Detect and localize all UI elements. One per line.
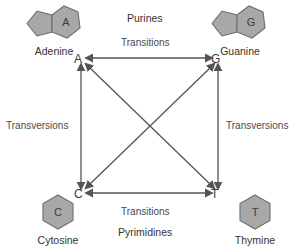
edge-label-bottom-transitions: Transitions (121, 207, 170, 217)
base-name-guanine: Guanine (200, 46, 280, 57)
molecule-guanine: G (209, 4, 271, 42)
base-name-cytosine: Cytosine (18, 235, 98, 246)
group-label-purines: Purines (127, 13, 163, 24)
molecule-letter-a: A (62, 16, 70, 28)
edge-label-top-transitions: Transitions (121, 38, 170, 48)
purine-shape-icon: A (24, 4, 86, 42)
pyrimidine-shape-icon: C (40, 193, 76, 231)
group-label-pyrimidines: Pyrimidines (118, 227, 172, 238)
pyrimidine-shape-icon: T (237, 193, 273, 231)
base-name-adenine: Adenine (14, 46, 94, 57)
edge-label-left-transversions: Transversions (6, 121, 68, 131)
molecule-letter-t: T (252, 206, 259, 218)
edge-label-right-transversions: Transversions (226, 121, 288, 131)
molecule-thymine: T (237, 193, 273, 231)
molecule-adenine: A (24, 4, 86, 42)
substitution-diagram: A G C T Transitions Transitions Transver… (0, 0, 298, 250)
molecule-letter-c: C (54, 206, 62, 218)
molecule-cytosine: C (40, 193, 76, 231)
molecule-letter-g: G (247, 16, 256, 28)
base-name-thymine: Thymine (215, 235, 295, 246)
node-letter-t: T (211, 188, 218, 200)
purine-shape-icon: G (209, 4, 271, 42)
